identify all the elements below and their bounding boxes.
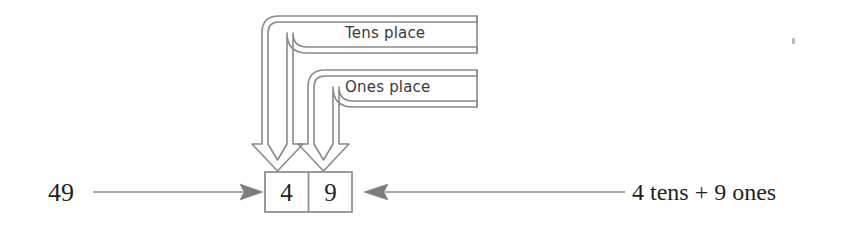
place-value-diagram: Tens place Ones place 4 9 49 4 tens + 9 … — [0, 0, 859, 235]
scan-artifact-speck — [792, 38, 795, 44]
digit-cell-ones: 9 — [309, 180, 352, 205]
callout-label-tens: Tens place — [345, 26, 425, 41]
source-number-label: 49 — [48, 180, 74, 206]
callout-label-ones: Ones place — [345, 80, 430, 95]
expanded-form-label: 4 tens + 9 ones — [632, 180, 776, 204]
expanded-arrow-head — [364, 184, 388, 200]
source-arrow-head — [240, 184, 263, 200]
digit-cell-tens: 4 — [265, 180, 308, 205]
